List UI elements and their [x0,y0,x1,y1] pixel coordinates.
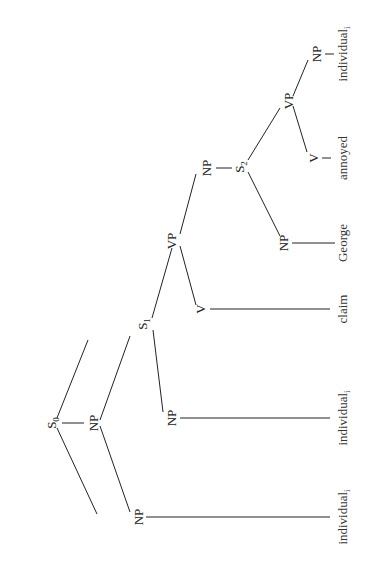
leaf-individual-3: individuali [335,26,352,82]
node-vp2: VP [281,93,296,110]
node-np-vp2: NP [309,46,324,63]
node-v2: V [306,153,321,163]
tree-nodes: S0 NP NP S1 NP VP V NP S2 NP VP V NP [44,46,324,526]
leaf-individual-1: individuali [335,489,352,545]
edge-vp1-v [180,246,196,305]
edge-np-npleft [100,426,130,512]
node-s1: S1 [135,318,152,330]
node-np-s2: NP [276,235,291,252]
edge-vp1-np [180,174,196,234]
edge-s2-np [248,172,280,236]
leaf-individual-2: individuali [335,390,352,446]
tree-leaves: individuali individuali claim George ann… [335,26,352,545]
edge-s0-lower [57,428,97,514]
node-np-top: NP [86,415,101,432]
node-vp1: VP [164,233,179,250]
node-np-vp1: NP [199,160,214,177]
edge-s0-upper [57,340,88,418]
node-s2: S2 [232,161,249,173]
edge-s1-np [153,330,163,412]
leaf-annoyed: annoyed [335,135,350,180]
edge-np-s1 [100,336,130,420]
edge-vp2-v [293,106,307,152]
edge-vp2-np [293,60,308,96]
node-s0: S0 [44,417,61,429]
syntax-tree-diagram: S0 NP NP S1 NP VP V NP S2 NP VP V NP ind… [0,0,369,574]
tree-edges [57,54,335,517]
node-v1: V [193,304,208,314]
node-np-s1: NP [164,410,179,427]
edge-s2-vp2 [248,108,280,160]
leaf-claim: claim [335,295,350,324]
edge-s1-vp [152,248,172,318]
leaf-george: George [335,224,350,262]
node-np-left: NP [131,509,146,526]
